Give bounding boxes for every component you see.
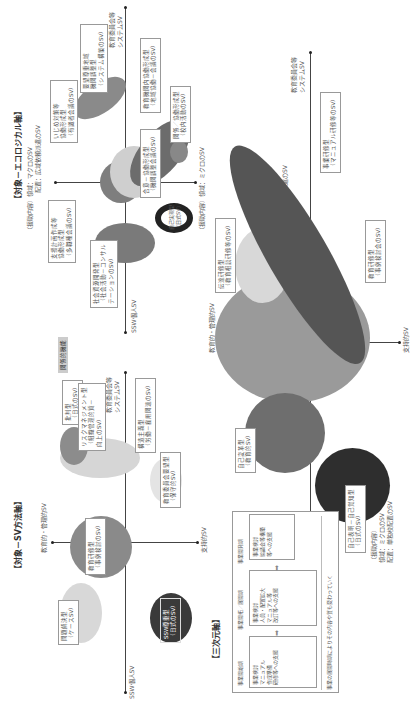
arrowhead-icon [309, 51, 312, 54]
sv-method-axis-right: 教育委員会等 システムSV [105, 377, 121, 413]
sv-method-title: 【対象－SV方法軸】 [12, 497, 23, 573]
label-structuralist: 構造主義型（労働－雇用関連のSV） [135, 378, 156, 453]
relational-function-tag: 関係的機能 [58, 337, 68, 373]
ecological-axis-top-2: 配置：広域依頼派遣のSV [34, 125, 42, 193]
label-edu-institution: 教育機関内協働形成型（地域協働－会議のSV） [140, 38, 161, 113]
ecological-axis-right: 教育委員会等 システムSV [108, 12, 124, 48]
phase-header-development: 事業開発期 [236, 539, 243, 564]
label-education-training: 教育研修型（事例検討のSV） [85, 518, 106, 575]
phase-footer-note: 事業の展開時期によりその内容や質も変わっていく [321, 516, 332, 690]
label-ssw-respect: SSW尊重型（日式のSV） [160, 598, 181, 643]
arrowhead-icon [124, 691, 127, 694]
label-risk-management: リスクマネジメント型（組織管理的質－向上のSV） [78, 383, 106, 451]
ecological-axis-left: SSW個人SV [130, 300, 138, 333]
label-request-respect: 要望尊重地域機関調整型（システム構築のSV） [80, 24, 108, 93]
sv-method-axis-bottom: 支持的SV [200, 527, 208, 553]
sv-method-axis-top: 教育的・管理的SV [40, 503, 48, 553]
arrowhead-icon [51, 541, 54, 544]
arrowhead-icon [54, 181, 57, 184]
ellipse-relation-collab [170, 141, 188, 163]
label-transfer-training: 伝達研修型（教育相談研修等のSV） [215, 218, 236, 293]
phase-header-expansion: 事業開拓／展開期 [236, 590, 243, 630]
ecological-title: 【対象－エコロジカル軸】 [12, 107, 23, 203]
label-relation-collab: 関係／協働形成型（校内活動のSV） [170, 86, 191, 143]
three-dim-title: 【三次元軸】 [210, 615, 221, 663]
label-board-request: 教育委員会要望型（保守的SV） [160, 452, 181, 508]
rotated-page: 【対象－SV方法軸】 教育的・管理的SV 支持的SV SSW個人SV 教育委員会… [0, 0, 412, 703]
arrowhead-icon [196, 541, 199, 544]
ellipse-self-reform [245, 393, 325, 473]
phase-flow-box: 事業開始期 事業開拓／展開期 事業開発期 事業検討マニュアル作成準備研修等への支… [232, 511, 339, 693]
phase-header-start: 事業開始期 [236, 661, 243, 686]
arrow-right-icon: ➡ [273, 630, 281, 636]
ecological-axis-bottom: （援助内容）領域：ミクロのSV [198, 147, 206, 233]
label-social-resource: 社会資源開発型（社会活動－コンサルテーションのSV） [90, 240, 118, 308]
ecological-axis-top-1: （援助内容）領域：マクロのSV [26, 147, 34, 233]
arrow-right-icon: ➡ [273, 565, 281, 571]
label-self-realization: 自己実現型（日式SV） [166, 200, 184, 233]
arrowhead-icon [124, 371, 127, 374]
sv-method-axis-left: SSW個人SV [128, 666, 136, 699]
label-education-training-3d: 教育研修型（事例検討会のSV） [365, 220, 386, 283]
label-problem-solving: 問題解決型（ケースSV） [58, 600, 79, 645]
label-bullying: いじめ対策等協働形成型（有識者会議のSV） [50, 80, 78, 143]
label-support-plan: 支援計画作成等協働形成型（多職種会議のSV） [48, 200, 76, 263]
label-self-expression: 自己表明－自己覚知型（日式のSV） [345, 485, 366, 553]
arrowhead-icon [194, 181, 197, 184]
phase-step-1: 事業検討マニュアル作成準備研修等への支援 [249, 636, 317, 688]
arrowhead-icon [124, 6, 127, 9]
three-dim-axis-bottom: 支持的SV [402, 327, 410, 353]
three-dim-axis-right: 教育委員会等 システムSV [290, 57, 306, 93]
phase-step-2: 事業検討人員・配置拡大マニュアル等改訂等への支援 [249, 570, 317, 626]
label-self-reform: 自己変革型（教育的SV） [235, 428, 256, 473]
phase-step-3: 事業検討協議会等構築等への支援 [249, 514, 295, 560]
label-business-training: 事業研修型（マニュアル研修等のSV） [320, 92, 341, 173]
arrowhead-icon [124, 331, 127, 334]
label-consensus: 合意－協働形成型（機関調整会議のSV） [140, 129, 161, 198]
arrowhead-icon [398, 341, 401, 344]
